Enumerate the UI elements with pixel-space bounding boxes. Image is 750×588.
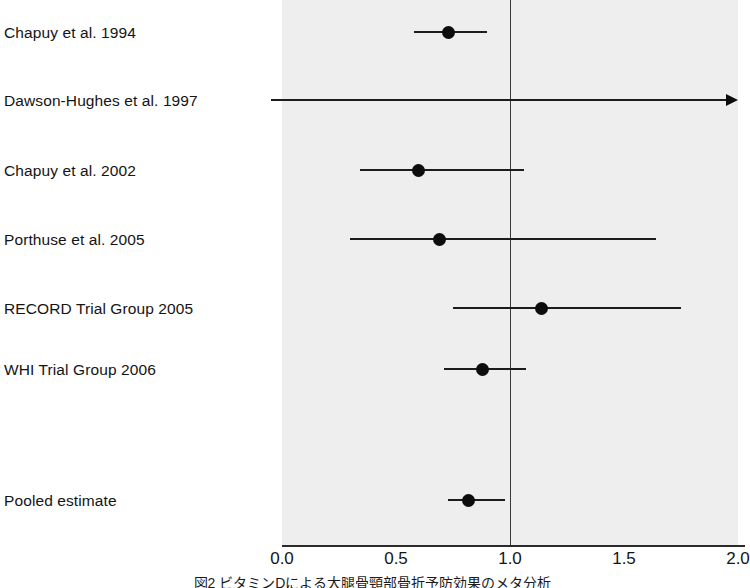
x-axis-right-extension [738, 545, 745, 547]
study-label-record-2005: RECORD Trial Group 2005 [4, 301, 193, 317]
ci-point-marker-0 [442, 26, 455, 39]
plot-inner [282, 0, 738, 545]
ci-line-2 [360, 169, 524, 171]
dawson-hughes-overflow-line [271, 99, 283, 101]
study-label-dawson-hughes-1997: Dawson-Hughes et al. 1997 [4, 93, 198, 109]
ci-row-0 [282, 23, 738, 41]
ci-row-2 [282, 161, 738, 179]
x-axis-line [282, 545, 738, 547]
study-label-chapuy-2002: Chapuy et al. 2002 [4, 163, 136, 179]
plot-area [282, 0, 738, 545]
figure-caption: 図2 ビタミンDによる大腿骨頸部骨折予防効果のメタ分析 [0, 576, 745, 588]
study-label-pooled-estimate: Pooled estimate [4, 493, 117, 509]
ci-row-5 [282, 360, 738, 378]
ci-row-4 [282, 299, 738, 317]
ci-point-marker-2 [412, 164, 425, 177]
null-reference-line [510, 0, 511, 545]
ci-line-4 [453, 307, 681, 309]
ci-row-1 [282, 91, 738, 109]
ci-line-3 [350, 238, 656, 240]
ci-line-1 [282, 99, 729, 101]
ci-row-6 [282, 491, 738, 509]
ci-point-marker-5 [476, 363, 489, 376]
study-label-column: Chapuy et al. 1994 Dawson-Hughes et al. … [0, 0, 272, 545]
x-tick-label-2: 1.0 [498, 550, 522, 567]
x-tick-label-0: 0.0 [270, 550, 294, 567]
ci-point-marker-3 [433, 233, 446, 246]
ci-line-6 [448, 499, 505, 501]
study-label-porthuse-2005: Porthuse et al. 2005 [4, 232, 145, 248]
study-label-whi-2006: WHI Trial Group 2006 [4, 362, 156, 378]
ci-point-marker-4 [535, 302, 548, 315]
study-label-chapuy-1994: Chapuy et al. 1994 [4, 25, 136, 41]
ci-right-arrow-1 [726, 94, 738, 106]
x-tick-label-3: 1.5 [612, 550, 636, 567]
x-tick-label-4: 2.0 [726, 550, 750, 567]
x-tick-label-1: 0.5 [384, 550, 408, 567]
ci-point-marker-6 [462, 494, 475, 507]
ci-row-3 [282, 230, 738, 248]
